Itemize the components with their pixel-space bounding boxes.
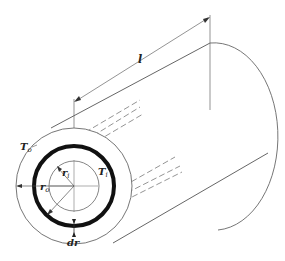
cylinder-top-edge: [51, 43, 210, 128]
arrowhead-right: [203, 17, 210, 23]
arrowhead-left: [74, 96, 81, 102]
far-end-arc: [210, 43, 278, 230]
outer-temp-label: To: [20, 141, 32, 154]
length-label: l: [138, 53, 142, 66]
shell-thickness-label: dr: [67, 237, 80, 248]
cylinder-bottom-edge: [113, 153, 268, 243]
cylinder-diagram: l To Ti ro ri dr: [0, 0, 285, 261]
